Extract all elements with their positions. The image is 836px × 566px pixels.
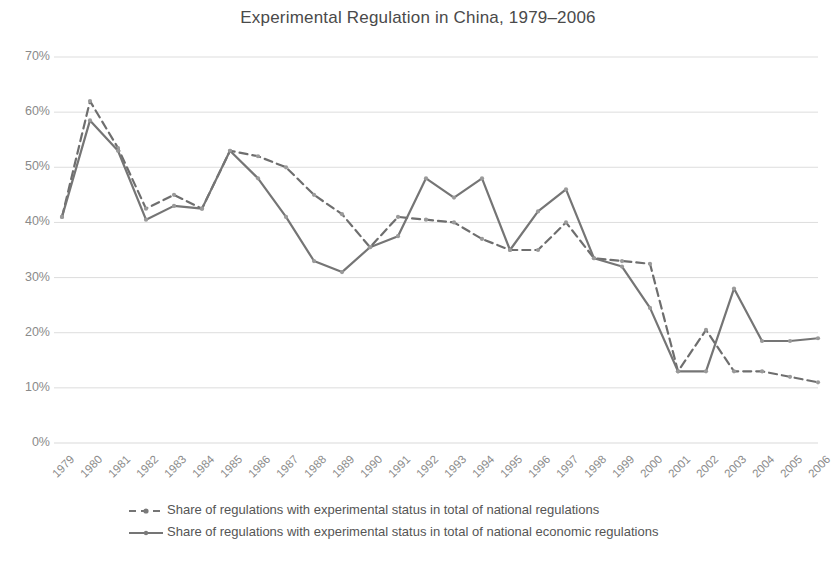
chart-legend: Share of regulations with experimental s… xyxy=(128,498,768,542)
data-point xyxy=(508,248,512,252)
data-point xyxy=(452,196,456,200)
data-point xyxy=(816,336,820,340)
series-group xyxy=(60,99,820,384)
data-point xyxy=(284,165,288,169)
data-point xyxy=(172,193,176,197)
data-point xyxy=(536,209,540,213)
data-point xyxy=(620,264,624,268)
y-tick-label: 10% xyxy=(8,380,50,394)
data-point xyxy=(788,375,792,379)
data-point xyxy=(536,248,540,252)
data-point xyxy=(732,287,736,291)
data-point xyxy=(648,306,652,310)
data-point xyxy=(760,369,764,373)
chart-container: Experimental Regulation in China, 1979–2… xyxy=(0,0,836,566)
dashed-line-icon xyxy=(128,503,164,515)
data-point xyxy=(256,154,260,158)
data-point xyxy=(200,207,204,211)
y-tick-label: 50% xyxy=(8,159,50,173)
data-point xyxy=(396,234,400,238)
legend-label: Share of regulations with experimental s… xyxy=(167,524,658,539)
data-point xyxy=(480,176,484,180)
data-point xyxy=(816,380,820,384)
data-point xyxy=(340,212,344,216)
data-point xyxy=(228,149,232,153)
y-tick-label: 30% xyxy=(8,270,50,284)
data-point xyxy=(620,259,624,263)
data-point xyxy=(60,215,64,219)
data-point xyxy=(424,176,428,180)
data-point xyxy=(732,369,736,373)
data-point xyxy=(116,149,120,153)
data-point xyxy=(788,339,792,343)
data-point xyxy=(480,237,484,241)
data-point xyxy=(396,215,400,219)
series-line-1 xyxy=(62,101,818,382)
data-point xyxy=(312,259,316,263)
data-point xyxy=(172,204,176,208)
gridlines-group xyxy=(54,57,818,443)
legend-item[interactable]: Share of regulations with experimental s… xyxy=(128,520,768,542)
data-point xyxy=(704,369,708,373)
solid-line-icon xyxy=(128,525,164,537)
legend-item[interactable]: Share of regulations with experimental s… xyxy=(128,498,768,520)
y-tick-label: 0% xyxy=(8,435,50,449)
y-tick-label: 20% xyxy=(8,325,50,339)
y-tick-label: 60% xyxy=(8,104,50,118)
data-point xyxy=(648,262,652,266)
data-point xyxy=(592,256,596,260)
data-point xyxy=(676,369,680,373)
data-point xyxy=(704,328,708,332)
data-point xyxy=(452,220,456,224)
data-point xyxy=(312,193,316,197)
data-point xyxy=(368,245,372,249)
data-point xyxy=(256,176,260,180)
data-point xyxy=(340,270,344,274)
data-point xyxy=(284,215,288,219)
y-tick-label: 40% xyxy=(8,214,50,228)
data-point xyxy=(144,207,148,211)
data-point xyxy=(564,220,568,224)
data-point xyxy=(88,99,92,103)
data-point xyxy=(760,339,764,343)
legend-label: Share of regulations with experimental s… xyxy=(167,502,599,517)
data-point xyxy=(564,187,568,191)
data-point xyxy=(424,218,428,222)
y-tick-label: 70% xyxy=(8,49,50,63)
data-point xyxy=(88,118,92,122)
data-point xyxy=(144,218,148,222)
